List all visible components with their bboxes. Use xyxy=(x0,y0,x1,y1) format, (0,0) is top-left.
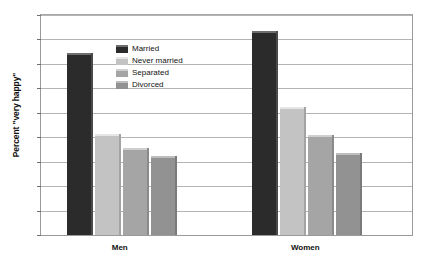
legend-item-never-married: Never married xyxy=(116,55,183,66)
y-axis-tick-mark xyxy=(37,15,41,16)
bar-side xyxy=(360,153,362,235)
legend-swatch-icon xyxy=(116,45,128,53)
legend-swatch-icon xyxy=(116,57,128,65)
bar-side xyxy=(276,31,278,235)
bar-never-married-women xyxy=(280,107,304,235)
bar-face xyxy=(280,109,304,235)
bar-side xyxy=(119,134,121,235)
y-axis-tick-mark xyxy=(37,235,41,236)
bar-divorced-men xyxy=(151,156,175,235)
bar-side xyxy=(332,135,334,235)
y-axis-tick-mark xyxy=(37,211,41,212)
y-axis-tick-mark xyxy=(37,162,41,163)
y-axis-tick-mark xyxy=(37,113,41,114)
bar-face xyxy=(67,55,91,235)
bar-separated-men xyxy=(123,148,147,235)
bar-side xyxy=(175,156,177,235)
y-axis-title: Percent "very happy" xyxy=(11,45,21,185)
bar-never-married-men xyxy=(95,134,119,235)
bar-chart: Percent "very happy" 051015202530354045 … xyxy=(0,0,423,265)
legend-label: Divorced xyxy=(132,80,164,89)
gridline xyxy=(41,39,412,40)
y-axis-tick-mark xyxy=(37,186,41,187)
bar-face xyxy=(252,33,276,235)
bar-divorced-women xyxy=(336,153,360,235)
bar-side xyxy=(304,107,306,235)
legend-swatch-icon xyxy=(116,81,128,89)
y-axis-tick-mark xyxy=(37,137,41,138)
gridline xyxy=(41,88,412,89)
bar-face xyxy=(151,158,175,235)
legend-item-divorced: Divorced xyxy=(116,79,183,90)
bar-face xyxy=(95,136,119,235)
gridline xyxy=(41,113,412,114)
x-axis-tick-label-men: Men xyxy=(80,243,160,252)
gridline xyxy=(41,15,412,16)
y-axis-tick-mark xyxy=(37,64,41,65)
y-axis-tick-mark xyxy=(37,88,41,89)
bar-face xyxy=(123,150,147,235)
bar-side xyxy=(147,148,149,235)
legend-label: Separated xyxy=(132,68,169,77)
x-axis-tick-label-women: Women xyxy=(265,243,345,252)
legend-item-separated: Separated xyxy=(116,67,183,78)
plot-area xyxy=(40,14,413,236)
bar-face xyxy=(336,155,360,235)
y-axis-tick-mark xyxy=(37,39,41,40)
bar-married-men xyxy=(67,53,91,235)
bar-face xyxy=(308,137,332,235)
legend: MarriedNever marriedSeparatedDivorced xyxy=(116,43,183,90)
gridline xyxy=(41,64,412,65)
bar-married-women xyxy=(252,31,276,235)
bar-side xyxy=(91,53,93,235)
bar-separated-women xyxy=(308,135,332,235)
legend-label: Married xyxy=(132,44,159,53)
legend-item-married: Married xyxy=(116,43,183,54)
legend-swatch-icon xyxy=(116,69,128,77)
legend-label: Never married xyxy=(132,56,183,65)
